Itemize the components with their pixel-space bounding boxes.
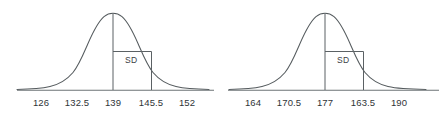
left-tick-label-4: 152 (179, 97, 195, 108)
right-tick-label-2: 177 (317, 97, 333, 108)
right-tick-label-1: 170.5 (277, 97, 301, 108)
normal-distribution-figure: SD 126 132.5 139 145.5 152 SD 164 (0, 0, 441, 117)
left-tick-label-3: 145.5 (139, 97, 163, 108)
left-chart-svg: SD 126 132.5 139 145.5 152 (0, 0, 220, 117)
right-tick-label-4: 190 (391, 97, 407, 108)
right-sd-label: SD (337, 55, 349, 65)
right-chart-svg: SD 164 170.5 177 163.5 190 (214, 0, 441, 117)
right-tick-label-0: 164 (245, 97, 261, 108)
left-distribution-chart: SD 126 132.5 139 145.5 152 (0, 0, 220, 117)
left-tick-label-0: 126 (33, 97, 49, 108)
left-tick-label-1: 132.5 (65, 97, 89, 108)
right-tick-label-3: 163.5 (351, 97, 375, 108)
left-sd-label: SD (125, 55, 137, 65)
right-distribution-chart: SD 164 170.5 177 163.5 190 (214, 0, 441, 117)
left-tick-label-2: 139 (105, 97, 121, 108)
